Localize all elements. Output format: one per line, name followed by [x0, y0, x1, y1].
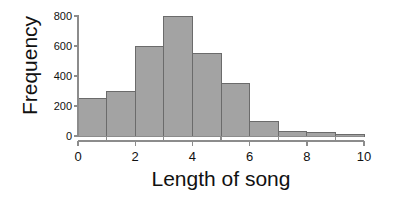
histogram-bar: [107, 91, 136, 136]
x-axis-tick-label: 8: [292, 150, 322, 163]
histogram-bar: [278, 132, 307, 137]
x-axis-tick-label: 0: [63, 150, 93, 163]
histogram-bar: [192, 54, 221, 137]
histogram-bar: [335, 135, 364, 137]
histogram-bar: [164, 16, 193, 136]
histogram-bar: [78, 99, 107, 137]
bars-group: [78, 16, 364, 136]
x-axis-tick-label: 4: [177, 150, 207, 163]
x-axis-tick-label: 2: [120, 150, 150, 163]
histogram-bar: [135, 46, 164, 136]
x-axis-tick-label: 10: [349, 150, 379, 163]
histogram-bar: [221, 84, 250, 137]
histogram-bar: [250, 121, 279, 136]
x-axis-title: Length of song: [78, 168, 364, 190]
histogram-bar: [307, 132, 336, 136]
histogram-figure: Frequency 0200400600800 0246810 Length o…: [0, 0, 400, 199]
x-axis-tick-label: 6: [235, 150, 265, 163]
